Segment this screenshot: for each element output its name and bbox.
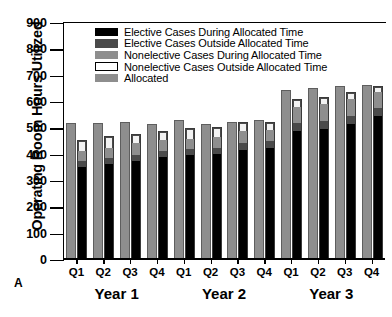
bar-group [308,88,329,260]
x-axis-tick [211,258,212,264]
y-axis-tick-label: 500 [26,121,47,135]
bar-segment-nd [105,148,113,158]
legend-item-nonelective-outside: Nonelective Cases Outside Allocated Time [95,61,327,73]
legend-item-allocated: Allocated [95,72,327,84]
legend-label: Elective Cases Outside Allocated Time [124,37,309,49]
bar-allocated [335,86,345,260]
x-axis-tick [103,258,104,264]
y-axis-tick-label: 300 [26,174,47,188]
figure-panel-a: Operating Room Hours Utilized 0100200300… [0,0,392,317]
bar-segment-no [186,129,194,139]
legend-item-elective-outside: Elective Cases Outside Allocated Time [95,38,327,50]
x-axis-tick-label: Q3 [337,266,352,278]
y-axis-tick [50,49,64,50]
legend-label: Nonelective Cases Outside Allocated Time [124,61,327,73]
x-axis-tick-label: Q2 [203,266,218,278]
x-axis-tick-label: Q1 [176,266,191,278]
y-axis-tick-label: 600 [26,95,47,109]
bar-segment-ed [293,131,301,259]
y-axis-tick [50,76,64,77]
bar-allocated [93,123,103,260]
bar-segment-eo [239,143,247,150]
bar-group [227,122,248,260]
bar-segment-nd [239,131,247,143]
bar-segment-nd [186,139,194,149]
bar-segment-nd [213,137,221,148]
bar-utilized-stack [292,99,302,260]
bar-segment-no [239,123,247,131]
bar-utilized-stack [238,122,248,260]
bar-allocated [66,123,76,260]
y-axis-tick-label: 200 [26,200,47,214]
bar-group [362,85,383,260]
legend-label: Nonelective Cases During Allocated Time [124,49,322,61]
legend-swatch-nonelective-during-icon [95,51,118,60]
bar-segment-eo [374,108,382,116]
bar-utilized-stack [104,136,114,260]
y-axis-tick [50,128,64,129]
bar-segment-no [105,137,113,148]
legend-item-nonelective-during: Nonelective Cases During Allocated Time [95,49,327,61]
bar-utilized-stack [212,127,222,260]
x-axis-tick-label: Q1 [283,266,298,278]
bar-utilized-stack [158,131,168,260]
bar-allocated [201,124,211,260]
x-axis-group-label: Year 1 [95,285,139,302]
bar-segment-eo [347,116,355,124]
bar-allocated [254,120,264,260]
y-axis-tick [50,181,64,182]
y-axis-tick [50,260,64,261]
x-axis-tick-label: Q2 [96,266,111,278]
bar-allocated [308,88,318,260]
bar-allocated [120,122,130,260]
bar-segment-nd [266,130,274,141]
x-axis-tick-label: Q4 [364,266,379,278]
y-axis-tick-label: 900 [26,16,47,30]
legend-label: Elective Cases During Allocated Time [124,26,303,38]
x-axis-tick [157,258,158,264]
x-axis-tick [318,258,319,264]
bar-segment-nd [159,140,167,151]
bar-segment-ed [186,155,194,259]
x-axis-tick-label: Q3 [230,266,245,278]
bar-segment-ed [320,129,328,259]
bar-allocated [362,85,372,260]
bar-utilized-stack [346,92,356,260]
bar-group [93,123,114,260]
bar-allocated [174,120,184,260]
bar-segment-ed [374,116,382,259]
legend-swatch-elective-outside-icon [95,39,118,48]
y-axis-tick [50,23,64,24]
bar-group [335,86,356,260]
bar-utilized-stack [373,86,383,260]
bar-utilized-stack [77,140,87,260]
bar-utilized-stack [185,128,195,260]
panel-letter: A [14,276,23,290]
bar-group [174,120,195,260]
x-axis-tick [291,258,292,264]
legend-swatch-nonelective-outside-icon [95,62,118,71]
bar-allocated [281,90,291,260]
bar-segment-ed [213,154,221,259]
y-axis-tick [50,207,64,208]
bar-segment-no [266,123,274,130]
x-axis-tick [372,258,373,264]
legend-item-elective-during: Elective Cases During Allocated Time [95,26,327,38]
bar-segment-eo [266,141,274,148]
x-axis-tick [264,258,265,264]
y-axis-tick-label: 400 [26,148,47,162]
bar-segment-ed [159,157,167,259]
bar-segment-ed [239,150,247,259]
y-axis-tick [50,234,64,235]
bar-segment-eo [293,123,301,131]
y-axis-tick-label: 700 [26,69,47,83]
y-axis-tick [50,155,64,156]
x-axis-line [63,258,385,260]
bar-segment-nd [78,151,86,162]
x-axis-group-label: Year 2 [202,285,246,302]
x-axis-tick-label: Q3 [122,266,137,278]
y-axis-tick-label: 0 [40,253,47,267]
bar-group [281,90,302,260]
x-axis-tick-label: Q4 [149,266,164,278]
bar-segment-ed [266,148,274,259]
